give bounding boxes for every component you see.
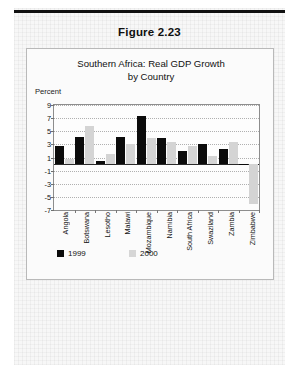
- y-axis-unit-label: Percent: [35, 87, 61, 96]
- chart-title: Southern Africa: Real GDP Growth by Coun…: [45, 57, 257, 83]
- y-axis-tick-label: -5: [44, 192, 51, 201]
- bar-group: [54, 105, 75, 210]
- bar-1999: [219, 149, 228, 164]
- x-axis-label-namibia: Namibia: [165, 212, 174, 238]
- bar-1999: [239, 164, 248, 165]
- y-axis-tick-label: -3: [44, 179, 51, 188]
- bar-1999: [178, 151, 187, 164]
- legend-item-1999: 1999: [57, 249, 86, 258]
- x-axis-label-swaziland: Swaziland: [206, 212, 215, 245]
- chart-legend: 19992000: [57, 249, 237, 263]
- bar-1999: [198, 144, 207, 164]
- bar-2000: [106, 154, 115, 164]
- legend-swatch-2000: [129, 250, 136, 257]
- bars-group: [54, 105, 259, 210]
- page-root: Figure 2.23 Southern Africa: Real GDP Gr…: [0, 0, 299, 373]
- legend-item-2000: 2000: [129, 249, 158, 258]
- legend-label-1999: 1999: [68, 249, 86, 258]
- bar-1999: [75, 137, 84, 164]
- bar-group: [95, 105, 116, 210]
- bar-group: [75, 105, 96, 210]
- bar-group: [157, 105, 178, 210]
- x-axis-label-zimbabwe: Zimbabwe: [248, 212, 257, 245]
- plot-area: 97531-1-3-5-7: [53, 104, 260, 211]
- y-axis-tick-mark: [51, 118, 54, 119]
- bar-2000: [167, 142, 176, 164]
- bar-2000: [147, 138, 156, 164]
- bar-group: [116, 105, 137, 210]
- y-axis-tick-label: -1: [44, 166, 51, 175]
- x-axis-label-lesotho: Lesotho: [103, 212, 112, 238]
- bar-2000: [65, 159, 74, 164]
- x-axis-label-zambia: Zambia: [227, 212, 236, 236]
- bar-2000: [126, 144, 135, 164]
- bar-group: [239, 105, 260, 210]
- y-axis-tick-mark: [51, 158, 54, 159]
- y-axis-tick-mark: [51, 210, 54, 211]
- y-axis-tick-label: -7: [44, 206, 51, 215]
- bar-2000: [208, 156, 217, 164]
- chart-title-line-2: by Country: [45, 70, 257, 83]
- bar-2000: [229, 142, 238, 164]
- bar-1999: [116, 137, 125, 164]
- x-axis-label-south-africa: South Africa: [185, 212, 194, 251]
- legend-swatch-1999: [57, 250, 64, 257]
- bar-1999: [55, 146, 64, 164]
- chart-title-line-1: Southern Africa: Real GDP Growth: [45, 57, 257, 70]
- top-rule-divider: [14, 10, 285, 13]
- bar-1999: [157, 138, 166, 164]
- y-axis-tick-mark: [51, 197, 54, 198]
- bar-group: [177, 105, 198, 210]
- bar-1999: [96, 161, 105, 164]
- x-axis-label-mozambique: Mozambique: [144, 212, 153, 253]
- figure-title: Figure 2.23: [14, 26, 285, 38]
- x-axis-label-botswana: Botswana: [82, 212, 91, 244]
- bar-group: [136, 105, 157, 210]
- bar-1999: [137, 116, 146, 165]
- x-axis-label-malawi: Malawi: [123, 212, 132, 234]
- x-axis-label-angola: Angola: [61, 212, 70, 234]
- legend-label-2000: 2000: [140, 249, 158, 258]
- bar-2000: [85, 126, 94, 164]
- y-axis-tick-mark: [51, 171, 54, 172]
- y-axis-tick-mark: [51, 144, 54, 145]
- bar-2000: [188, 146, 197, 164]
- bar-group: [218, 105, 239, 210]
- plot-inner: [54, 105, 259, 210]
- y-axis-tick-mark: [51, 131, 54, 132]
- y-axis-tick-mark: [51, 184, 54, 185]
- bar-group: [198, 105, 219, 210]
- y-axis-tick-mark: [51, 105, 54, 106]
- bar-2000: [249, 164, 258, 204]
- chart-card: Southern Africa: Real GDP Growth by Coun…: [26, 48, 274, 280]
